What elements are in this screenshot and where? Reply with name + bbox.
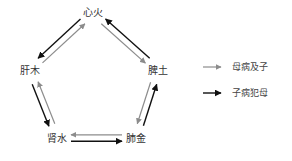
node-liver: 肝木: [20, 65, 40, 76]
edge-arrow-kidney-to-liver: [38, 82, 55, 124]
legend-label-mother-to-child: 母病及子: [232, 61, 268, 72]
node-heart: 心火: [83, 7, 103, 18]
edge-arrow-heart-to-liver: [38, 19, 80, 58]
edge-arrow-heart-to-spleen: [101, 24, 145, 63]
edge-arrow-liver-to-kidney: [32, 84, 49, 126]
node-kidney: 肾水: [47, 133, 67, 144]
legend: 母病及子 子病犯母: [203, 61, 268, 98]
edge-arrow-spleen-to-lung: [137, 82, 150, 123]
edge-arrow-lung-to-spleen: [143, 84, 156, 125]
edge-arrow-spleen-to-heart: [106, 19, 150, 58]
legend-label-child-to-mother: 子病犯母: [232, 87, 268, 98]
node-lung: 肺金: [126, 132, 146, 144]
five-elements-diagram: 心火 脾土 肺金 肾水 肝木 母病及子 子病犯母: [0, 0, 292, 161]
node-spleen: 脾土: [148, 64, 168, 76]
nodes-layer: 心火 脾土 肺金 肾水 肝木: [20, 7, 168, 144]
edges-layer: [32, 19, 157, 141]
edge-arrow-liver-to-heart: [43, 24, 85, 63]
